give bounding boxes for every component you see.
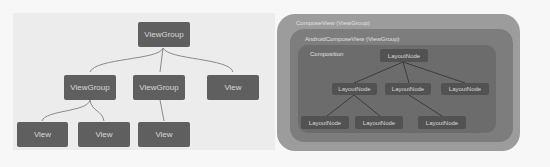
node-label: View: [224, 83, 241, 92]
layout-node-l2: LayoutNode: [355, 116, 403, 129]
node-label: ViewGroup: [139, 83, 178, 92]
layout-node-l2: LayoutNode: [418, 116, 466, 129]
node-label: LayoutNode: [392, 86, 424, 92]
edge-vg1-view1: [42, 100, 90, 121]
view-node-l2: View: [17, 122, 68, 147]
android-compose-view-label: AndroidComposeView (ViewGroup): [305, 36, 400, 42]
node-label: View: [95, 130, 112, 139]
layout-node-l2: LayoutNode: [301, 116, 349, 129]
view-node-l2: View: [78, 122, 130, 147]
edge-vg1-view2: [90, 100, 104, 121]
compose-view-label: ComposeView (ViewGroup): [296, 20, 370, 26]
node-label: View: [155, 130, 172, 139]
node-label: LayoutNode: [426, 120, 458, 126]
node-label: ViewGroup: [144, 30, 183, 39]
node-label: LayoutNode: [388, 53, 420, 59]
edge-root-vg1: [90, 48, 163, 72]
node-label: LayoutNode: [338, 86, 370, 92]
view-node-l1: ViewGroup: [133, 75, 185, 100]
node-label: View: [34, 130, 51, 139]
view-node-l2: View: [138, 122, 190, 147]
view-node-l1: ViewGroup: [64, 75, 116, 100]
view-node-l1: View: [207, 75, 259, 100]
edge-vg2-view3: [160, 100, 164, 121]
layout-node-l1: LayoutNode: [441, 83, 489, 95]
node-label: LayoutNode: [363, 120, 395, 126]
layout-node-l1: LayoutNode: [385, 83, 431, 95]
layout-node-l1: LayoutNode: [332, 83, 377, 95]
edge-root-view: [163, 48, 233, 72]
node-label: LayoutNode: [449, 86, 481, 92]
layout-node-root: LayoutNode: [380, 49, 428, 62]
view-node-root: ViewGroup: [138, 22, 190, 47]
node-label: LayoutNode: [309, 120, 341, 126]
composition-label: Composition: [310, 51, 343, 57]
node-label: ViewGroup: [70, 83, 109, 92]
